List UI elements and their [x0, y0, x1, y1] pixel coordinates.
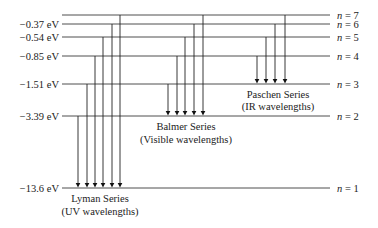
- transition-arrow-paschen-n4-to-n3: [255, 56, 260, 84]
- quantum-number-label-n1: n = 1: [337, 183, 359, 194]
- quantum-number-label-n3: n = 3: [337, 79, 359, 90]
- diagram-canvas: n = 7−0.37 eVn = 6−0.54 eVn = 5−0.85 eVn…: [0, 0, 378, 228]
- transition-arrow-balmer-n3-to-n2: [166, 84, 171, 116]
- arrowhead-icon: [283, 79, 288, 84]
- energy-label-n3: −1.51 eV: [20, 79, 60, 90]
- transition-arrow-lyman-n7-to-n1: [118, 15, 123, 188]
- transition-arrow-lyman-n5-to-n1: [101, 37, 106, 188]
- arrowhead-icon: [85, 183, 90, 188]
- arrowhead-icon: [110, 183, 115, 188]
- arrowhead-icon: [201, 111, 206, 116]
- series-labels: Lyman Series (UV wavelengths) Balmer Ser…: [61, 89, 314, 218]
- transition-arrow-paschen-n7-to-n3: [283, 15, 288, 84]
- arrowhead-icon: [255, 79, 260, 84]
- transition-arrow-paschen-n6-to-n3: [273, 24, 278, 84]
- arrowhead-icon: [76, 183, 81, 188]
- paschen-series-sublabel: (IR wavelengths): [242, 101, 315, 113]
- arrowhead-icon: [183, 111, 188, 116]
- arrowhead-icon: [192, 111, 197, 116]
- energy-level-diagram: n = 7−0.37 eVn = 6−0.54 eVn = 5−0.85 eVn…: [0, 0, 378, 228]
- arrowhead-icon: [118, 183, 123, 188]
- transition-arrow-lyman-n2-to-n1: [76, 116, 81, 188]
- quantum-number-label-n2: n = 2: [337, 111, 359, 122]
- lyman-series-label: Lyman Series: [71, 193, 128, 204]
- arrowhead-icon: [93, 183, 98, 188]
- arrowhead-icon: [175, 111, 180, 116]
- energy-label-n4: −0.85 eV: [20, 51, 60, 62]
- arrowhead-icon: [273, 79, 278, 84]
- transition-arrow-balmer-n7-to-n2: [201, 15, 206, 116]
- energy-label-n1: −13.6 eV: [20, 183, 60, 194]
- arrowhead-icon: [264, 79, 269, 84]
- transition-arrow-balmer-n4-to-n2: [175, 56, 180, 116]
- transition-arrow-balmer-n6-to-n2: [192, 24, 197, 116]
- transition-arrow-lyman-n4-to-n1: [93, 56, 98, 188]
- transition-arrow-lyman-n3-to-n1: [85, 84, 90, 188]
- balmer-series-label: Balmer Series: [156, 121, 215, 132]
- energy-label-n2: −3.39 eV: [20, 111, 60, 122]
- paschen-series-label: Paschen Series: [247, 89, 310, 100]
- quantum-number-label-n5: n = 5: [337, 32, 359, 43]
- transition-arrow-paschen-n5-to-n3: [264, 37, 269, 84]
- quantum-number-label-n6: n = 6: [337, 19, 359, 30]
- arrowhead-icon: [166, 111, 171, 116]
- balmer-series-sublabel: (Visible wavelengths): [140, 134, 232, 146]
- transition-arrow-lyman-n6-to-n1: [110, 24, 115, 188]
- lyman-series-sublabel: (UV wavelengths): [61, 206, 139, 218]
- energy-label-n5: −0.54 eV: [20, 32, 60, 43]
- transition-arrow-balmer-n5-to-n2: [183, 37, 188, 116]
- energy-label-n6: −0.37 eV: [20, 19, 60, 30]
- quantum-number-label-n4: n = 4: [337, 51, 359, 62]
- arrowhead-icon: [101, 183, 106, 188]
